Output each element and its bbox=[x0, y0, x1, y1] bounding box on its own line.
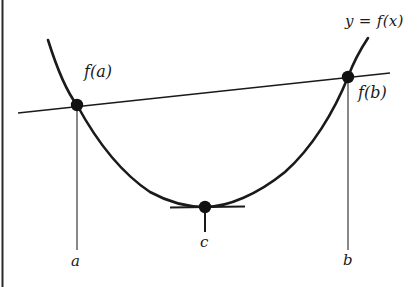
curve-equation-label: y = f(x) bbox=[345, 14, 404, 29]
axis-label-a: a bbox=[71, 254, 80, 269]
point-marker-fa bbox=[71, 99, 83, 111]
fb-value-label: f(b) bbox=[358, 85, 387, 101]
axis-label-b: b bbox=[343, 253, 353, 268]
point-marker-fb bbox=[342, 71, 354, 83]
figure-container: y = f(x) f(a) f(b) a b c bbox=[0, 0, 420, 287]
fa-value-label: f(a) bbox=[84, 64, 112, 80]
point-marker-c bbox=[199, 201, 211, 213]
mvt-diagram-svg bbox=[0, 0, 420, 287]
axis-label-c: c bbox=[200, 235, 208, 250]
